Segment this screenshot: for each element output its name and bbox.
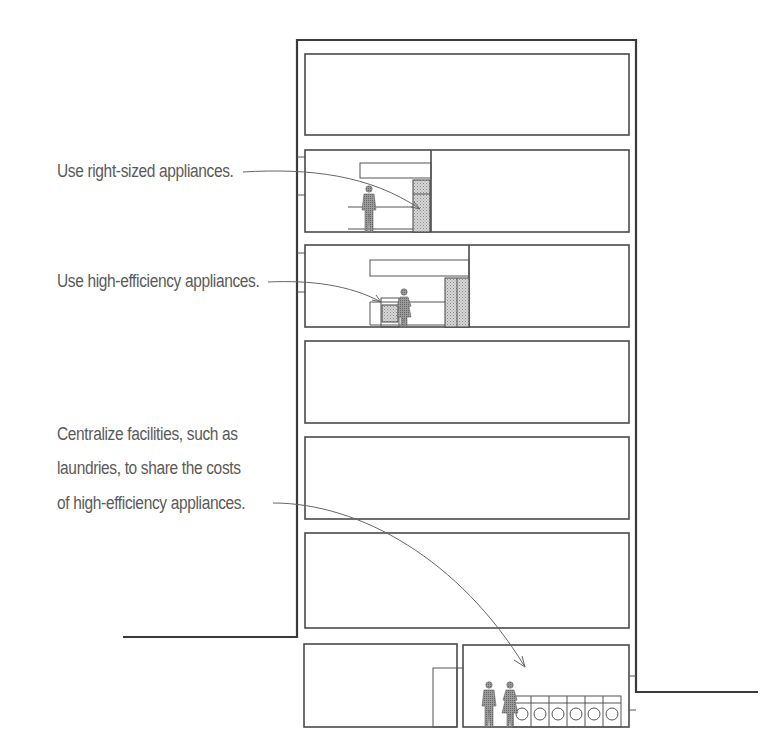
leader-right-sized bbox=[243, 171, 420, 209]
building-shell bbox=[123, 40, 758, 692]
floor-5 bbox=[305, 437, 629, 519]
washer-icon bbox=[534, 708, 546, 720]
washer-row bbox=[513, 696, 621, 727]
washer-icon bbox=[570, 708, 582, 720]
upper-cabinet bbox=[360, 163, 431, 178]
floor-2-right-sized-kitchen bbox=[305, 150, 629, 232]
leader-centralize bbox=[273, 503, 525, 667]
building-section-diagram bbox=[0, 0, 769, 740]
floor-4 bbox=[305, 341, 629, 423]
floor-1 bbox=[305, 54, 629, 135]
washer-icon bbox=[588, 708, 600, 720]
annotation-high-efficiency: Use high-efficiency appliances. bbox=[57, 265, 259, 297]
washer-icon bbox=[516, 708, 528, 720]
woman-figure-icon bbox=[502, 682, 518, 727]
man-figure-icon bbox=[362, 186, 376, 232]
window-markers bbox=[297, 157, 636, 710]
floor-6 bbox=[305, 533, 629, 628]
washer-icon bbox=[606, 708, 618, 720]
annotation-centralize-line-2: laundries, to share the costs bbox=[57, 452, 241, 484]
leader-high-efficiency bbox=[268, 282, 381, 302]
washer-icon bbox=[552, 708, 564, 720]
annotation-centralize-line-1: Centralize facilities, such as bbox=[57, 418, 238, 450]
basement-laundry-room bbox=[463, 645, 629, 727]
door bbox=[433, 668, 457, 727]
annotation-centralize-line-3: of high-efficiency appliances. bbox=[57, 487, 245, 519]
annotation-right-sized: Use right-sized appliances. bbox=[57, 155, 234, 187]
upper-cabinet bbox=[370, 260, 469, 276]
basement-storage-room bbox=[304, 644, 463, 727]
floor-3-high-efficiency-kitchen bbox=[305, 245, 629, 327]
man-figure-icon bbox=[482, 682, 496, 727]
